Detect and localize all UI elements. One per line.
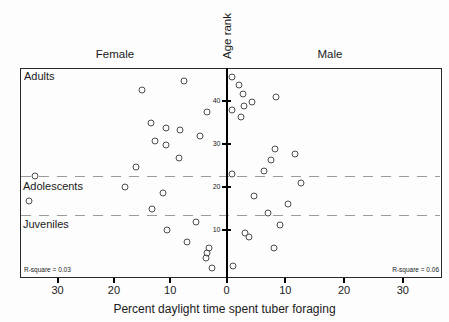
data-point-male (241, 102, 248, 109)
data-point-female (180, 77, 187, 84)
data-point-female (204, 109, 211, 116)
data-point-male (276, 221, 283, 228)
data-point-female (160, 190, 167, 197)
data-point-female (162, 125, 169, 132)
data-point-male (270, 244, 277, 251)
x-tick (113, 278, 115, 283)
data-point-male (260, 167, 267, 174)
x-tick (226, 278, 228, 283)
region-label-adolescents: Adolescents (23, 180, 83, 192)
x-tick-label: 10 (157, 284, 183, 296)
data-point-female (26, 198, 33, 205)
data-point-male (272, 145, 279, 152)
x-tick-label: 0 (214, 284, 240, 296)
data-point-male (298, 180, 305, 187)
data-point-male (291, 151, 298, 158)
x-tick (169, 278, 171, 283)
scatter-figure: Age rank Female Male Adults Adolescents … (0, 0, 449, 322)
female-panel-header: Female (85, 48, 145, 60)
data-point-female (139, 87, 146, 94)
data-point-male (237, 114, 244, 121)
y-tick (222, 186, 231, 188)
x-tick-label: 10 (272, 284, 298, 296)
data-point-male (228, 171, 235, 178)
data-point-male (268, 157, 275, 164)
x-tick (402, 278, 404, 283)
data-point-female (197, 132, 204, 139)
y-tick-label: 30 (199, 140, 221, 148)
y-tick-label: 20 (199, 183, 221, 191)
data-point-female (175, 155, 182, 162)
y-tick (222, 143, 231, 145)
x-tick-label: 30 (45, 284, 71, 296)
data-point-male (236, 81, 243, 88)
region-label-adults: Adults (24, 70, 55, 82)
data-point-male (272, 94, 279, 101)
region-label-juveniles: Juveniles (23, 218, 69, 230)
y-tick-label: 40 (199, 97, 221, 105)
data-point-female (32, 173, 39, 180)
x-tick (284, 278, 286, 283)
x-tick-label: 30 (390, 284, 416, 296)
y-tick (222, 229, 231, 231)
data-point-male (239, 90, 246, 97)
data-point-male (285, 200, 292, 207)
y-tick (222, 100, 231, 102)
data-point-male (251, 192, 258, 199)
data-point-male (228, 73, 235, 80)
x-tick-label: 20 (101, 284, 127, 296)
male-panel-header: Male (300, 48, 360, 60)
y-tick-label: 10 (199, 226, 221, 234)
data-point-male (229, 262, 236, 269)
rsquare-male-annotation: R-square = 0.06 (392, 266, 439, 273)
y-axis-title: Age rank (221, 13, 233, 59)
x-tick (57, 278, 59, 283)
age-class-separator-line (21, 215, 440, 216)
data-point-female (176, 126, 183, 133)
x-axis-title: Percent daylight time spent tuber foragi… (0, 302, 449, 316)
data-point-female (184, 238, 191, 245)
data-point-female (162, 141, 169, 148)
x-tick (343, 278, 345, 283)
data-point-male (246, 233, 253, 240)
x-tick-label: 20 (331, 284, 357, 296)
data-point-female (151, 137, 158, 144)
data-point-male (229, 106, 236, 113)
rsquare-female-annotation: R-square = 0.03 (24, 266, 71, 273)
data-point-male (249, 98, 256, 105)
data-point-female (164, 227, 171, 234)
data-point-female (203, 254, 210, 261)
data-point-female (148, 120, 155, 127)
data-point-male (264, 210, 271, 217)
data-point-female (122, 183, 129, 190)
data-point-female (208, 265, 215, 272)
data-point-female (193, 219, 200, 226)
data-point-female (149, 205, 156, 212)
data-point-female (133, 163, 140, 170)
